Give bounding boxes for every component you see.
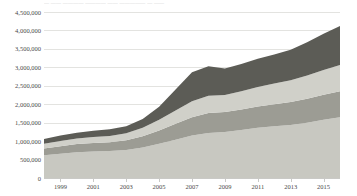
area-series-group bbox=[44, 12, 340, 178]
y-axis-tick-label: 0 bbox=[1, 175, 41, 182]
stacked-area-chart: — —— ———— ———— —— ————— — —— 4,500,0004,… bbox=[0, 0, 357, 196]
y-axis-labels: 4,500,0004,000,0003,500,0003,000,0002,50… bbox=[0, 0, 41, 196]
x-axis-tick-label: 2015 bbox=[317, 183, 330, 191]
y-axis-tick-label: 500,000 bbox=[1, 156, 41, 163]
x-axis-tick-label: 2007 bbox=[186, 183, 199, 191]
x-axis-tick bbox=[60, 178, 61, 182]
x-axis-tick-label: 2011 bbox=[251, 183, 264, 191]
y-axis-tick-label: 4,500,000 bbox=[1, 9, 41, 16]
x-axis-tick bbox=[324, 178, 325, 182]
plot-area bbox=[44, 12, 340, 178]
y-axis-tick-label: 3,500,000 bbox=[1, 45, 41, 52]
x-axis-tick-label: 1999 bbox=[54, 183, 67, 191]
x-axis-tick bbox=[192, 178, 193, 182]
x-axis-labels: 199920012003200520072009201120132015 bbox=[0, 183, 357, 196]
x-axis-tick bbox=[93, 178, 94, 182]
x-axis-tick bbox=[258, 178, 259, 182]
y-axis-tick-label: 2,500,000 bbox=[1, 82, 41, 89]
x-axis-tick bbox=[159, 178, 160, 182]
x-axis-tick-label: 2009 bbox=[218, 183, 231, 191]
x-axis-tick bbox=[126, 178, 127, 182]
y-axis-tick-label: 3,000,000 bbox=[1, 64, 41, 71]
x-axis-tick bbox=[291, 178, 292, 182]
x-axis-tick-label: 2001 bbox=[87, 183, 100, 191]
x-axis-tick-label: 2013 bbox=[284, 183, 297, 191]
x-axis-tick bbox=[225, 178, 226, 182]
y-axis-tick-label: 1,000,000 bbox=[1, 138, 41, 145]
x-axis-tick-label: 2005 bbox=[153, 183, 166, 191]
y-axis-tick-label: 1,500,000 bbox=[1, 119, 41, 126]
x-axis-tick-label: 2003 bbox=[120, 183, 133, 191]
y-axis-tick-label: 4,000,000 bbox=[1, 27, 41, 34]
chart-title-fragment: — —— ———— ———— —— ————— — —— bbox=[44, 0, 334, 6]
y-axis-tick-label: 2,000,000 bbox=[1, 101, 41, 108]
